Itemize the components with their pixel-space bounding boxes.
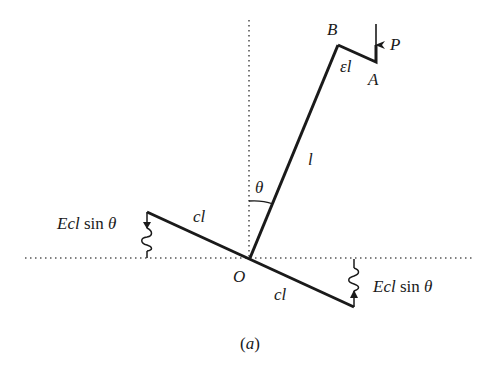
label-O: O [233,267,245,286]
label-P: P [389,35,400,54]
main-rod [250,45,338,258]
label-cl-left: cl [193,207,206,226]
label-A: A [367,70,379,89]
label-eps-l: εl [340,57,352,76]
theta-arc [249,201,273,204]
label-cl-right: cl [274,285,287,304]
label-right-spring-force: Ecl sin θ [372,277,432,296]
label-left-spring-force: Ecl sin θ [56,214,116,233]
right-spring-icon [349,259,359,307]
left-spring-icon [142,212,152,258]
figure-caption: (a) [240,334,260,353]
label-l: l [308,150,313,169]
label-theta: θ [255,178,263,197]
cross-bar [147,212,354,307]
label-B: B [327,20,338,39]
diagram-canvas: B P A εl l θ O cl cl Ecl sin θ Ecl sin θ… [0,0,496,372]
